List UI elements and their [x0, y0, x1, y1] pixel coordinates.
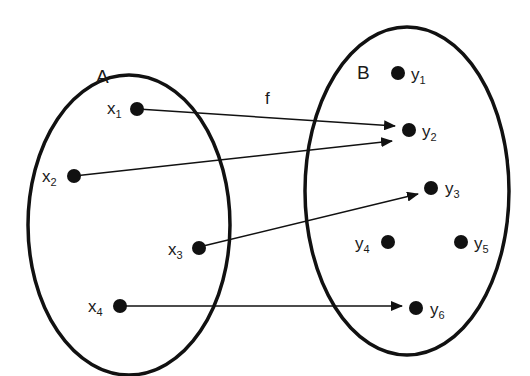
label-y3-base: y	[445, 179, 454, 198]
point-x4	[113, 299, 127, 313]
label-y6-sub: 6	[439, 309, 445, 321]
set-b-label: B	[357, 63, 370, 82]
point-y5	[454, 235, 468, 249]
label-x1-sub: 1	[116, 108, 122, 120]
label-y4-base: y	[355, 234, 364, 253]
label-x2: x2	[42, 168, 57, 188]
label-y2-base: y	[422, 122, 431, 141]
point-x1	[130, 102, 144, 116]
label-y1: y1	[411, 66, 426, 86]
label-y3: y3	[445, 180, 460, 200]
arrow-x1-y2	[138, 109, 395, 126]
label-x3-sub: 3	[177, 249, 183, 261]
point-y6	[409, 301, 423, 315]
point-x3	[192, 241, 206, 255]
point-y3	[424, 181, 438, 195]
label-x4: x4	[88, 298, 103, 318]
label-y4-sub: 4	[364, 243, 370, 255]
label-y3-sub: 3	[454, 188, 460, 200]
set-a-ellipse	[28, 75, 230, 375]
label-y5-sub: 5	[483, 243, 489, 255]
label-x3-base: x	[168, 240, 177, 259]
point-y1	[391, 66, 405, 80]
set-a-label: A	[96, 67, 109, 86]
label-x1: x1	[107, 100, 122, 120]
function-label: f	[265, 90, 270, 107]
label-x4-base: x	[88, 297, 97, 316]
label-y5: y5	[474, 235, 489, 255]
label-y6-base: y	[430, 300, 439, 319]
label-y2-sub: 2	[431, 131, 437, 143]
label-x1-base: x	[107, 99, 116, 118]
point-y2	[402, 123, 416, 137]
arrow-x2-y2	[74, 141, 392, 176]
label-y2: y2	[422, 123, 437, 143]
label-x3: x3	[168, 241, 183, 261]
label-y1-sub: 1	[420, 74, 426, 86]
label-y4: y4	[355, 235, 370, 255]
label-x2-base: x	[42, 167, 51, 186]
label-x2-sub: 2	[51, 176, 57, 188]
label-y6: y6	[430, 301, 445, 321]
label-y1-base: y	[411, 65, 420, 84]
label-y5-base: y	[474, 234, 483, 253]
point-x2	[67, 169, 81, 183]
point-y4	[381, 235, 395, 249]
label-x4-sub: 4	[97, 306, 103, 318]
